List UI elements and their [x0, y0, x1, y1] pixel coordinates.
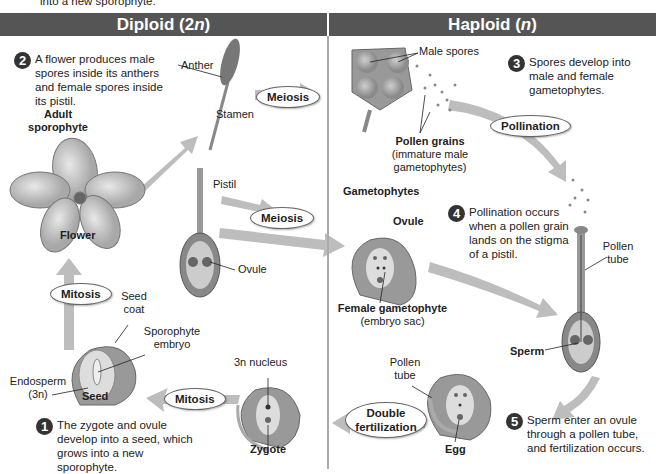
female-gametophyte-subtitle: (embryo sac): [330, 315, 455, 328]
process-mitosis-bottom: Mitosis: [164, 388, 226, 410]
step-text: A flower produces male spores inside its…: [35, 52, 164, 108]
process-meiosis-mid: Meiosis: [250, 207, 314, 229]
haploid-header: Haploid (n): [329, 13, 656, 36]
step-number-badge: 4: [448, 205, 465, 222]
process-mitosis-left: Mitosis: [50, 283, 112, 305]
header-text: Haploid (: [448, 15, 521, 35]
step-3: 3 Spores develop into male and female ga…: [508, 55, 648, 97]
step-4: 4 Pollination occurs when a pollen grain…: [448, 205, 573, 261]
label-sporophyte-embryo: Sporophyte embryo: [137, 325, 207, 351]
label-pollen-tube-right: Pollen tube: [598, 240, 638, 266]
label-endosperm: Endosperm (3n): [8, 375, 68, 401]
endosperm-subtitle: (3n): [8, 388, 68, 401]
label-anther: Anther: [181, 59, 213, 72]
label-pollen-grains: Pollen grains (immature male gametophyte…: [380, 135, 480, 174]
pollen-grains-title: Pollen grains: [380, 135, 480, 148]
step-number-badge: 2: [14, 52, 31, 69]
endosperm-title: Endosperm: [8, 375, 68, 388]
label-ovule-right: Ovule: [393, 215, 424, 228]
label-3n-nucleus: 3n nucleus: [234, 356, 287, 369]
step-number-badge: 5: [506, 413, 523, 430]
step-text: Sperm enter an ovule through a pollen tu…: [527, 413, 656, 455]
header-italic: n: [521, 15, 531, 35]
process-pollination: Pollination: [490, 115, 571, 137]
divider: [327, 36, 329, 469]
zygote-illustration: [238, 378, 300, 450]
label-ovule-left: Ovule: [238, 263, 267, 276]
ovule-illustration: [352, 238, 416, 305]
pollen-grains-subtitle: (immature male gametophytes): [380, 148, 480, 174]
header-italic: n: [194, 15, 204, 35]
label-pollen-tube-bottom: Pollen tube: [385, 356, 425, 382]
process-meiosis-top: Meiosis: [256, 86, 320, 108]
step-text: The zygote and ovule develop into a seed…: [57, 418, 201, 474]
label-adult-sporophyte: Adult sporophyte: [18, 108, 98, 134]
step-text: Pollination occurs when a pollen grain l…: [469, 205, 573, 261]
label-flower: Flower: [60, 229, 95, 242]
label-zygote: Zygote: [250, 443, 286, 456]
label-pistil: Pistil: [213, 178, 236, 191]
diploid-header: Diploid (2n): [0, 13, 327, 36]
step-text: Spores develop into male and female game…: [529, 55, 648, 97]
label-seed: Seed: [82, 390, 108, 403]
fertilization-ovule-illustration: [412, 374, 491, 442]
label-seed-coat: Seed coat: [116, 290, 152, 316]
label-stamen: Stamen: [216, 108, 254, 121]
header-close: ): [205, 15, 211, 35]
step-5: 5 Sperm enter an ovule through a pollen …: [506, 413, 656, 455]
label-egg: Egg: [445, 443, 466, 456]
clipped-caption: into a new sporophyte.: [40, 0, 156, 8]
label-male-spores: Male spores: [419, 45, 479, 58]
step-number-badge: 3: [508, 55, 525, 72]
header-close: ): [531, 15, 537, 35]
step-number-badge: 1: [36, 418, 53, 435]
label-gametophytes: Gametophytes: [343, 185, 419, 198]
step-1: 1 The zygote and ovule develop into a se…: [36, 418, 201, 474]
step-2: 2 A flower produces male spores inside i…: [14, 52, 164, 108]
stamen-illustration: [178, 37, 244, 150]
header-text: Diploid (2: [117, 15, 194, 35]
female-gametophyte-title: Female gametophyte: [330, 302, 455, 315]
label-female-gametophyte: Female gametophyte (embryo sac): [330, 302, 455, 328]
anther-cross-section-illustration: [352, 48, 430, 133]
label-sperm: Sperm: [510, 345, 544, 358]
process-double-fertilization: Double fertilization: [345, 402, 427, 438]
